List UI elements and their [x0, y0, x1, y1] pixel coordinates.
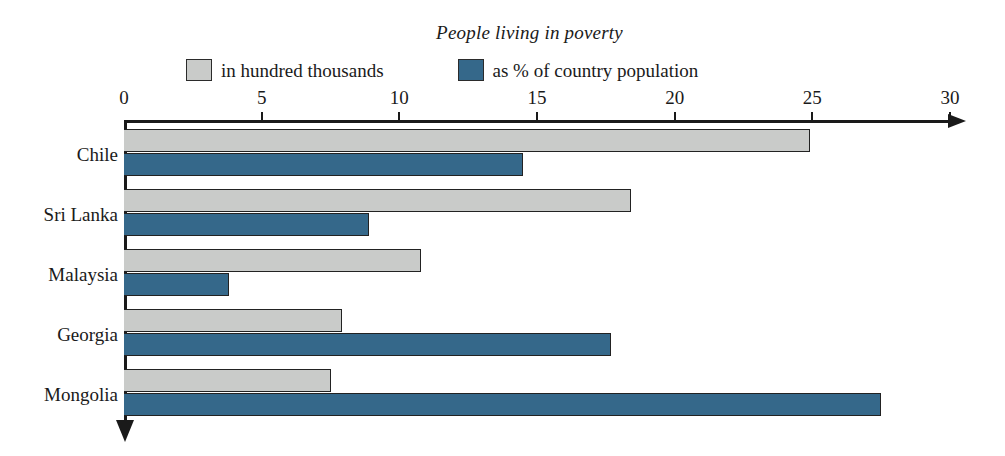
- x-tick-label-0: 0: [119, 88, 129, 107]
- category-axis-labels: ChileSri LankaMalaysiaGeorgiaMongolia: [0, 123, 118, 423]
- plot-area: [124, 123, 950, 423]
- legend-entry-percent-population[interactable]: as % of country population: [458, 59, 699, 81]
- legend-label-percent-population: as % of country population: [493, 61, 699, 80]
- chart-legend: in hundred thousands as % of country pop…: [186, 59, 698, 81]
- bar-sri-lanka-series-1[interactable]: [124, 213, 369, 236]
- legend-swatch-grey-icon: [186, 59, 212, 81]
- poverty-bar-chart: People living in poverty in hundred thou…: [0, 0, 1005, 456]
- legend-entry-hundred-thousands[interactable]: in hundred thousands: [186, 59, 384, 81]
- legend-label-hundred-thousands: in hundred thousands: [221, 61, 384, 80]
- bar-chile-series-1[interactable]: [124, 153, 523, 176]
- category-label-chile: Chile: [0, 145, 118, 164]
- category-label-georgia: Georgia: [0, 325, 118, 344]
- bar-sri-lanka-series-0[interactable]: [124, 189, 631, 212]
- bar-georgia-series-0[interactable]: [124, 309, 342, 332]
- x-tick-label-20: 20: [665, 88, 684, 107]
- x-tick-label-30: 30: [941, 88, 960, 107]
- bar-mongolia-series-1[interactable]: [124, 393, 881, 416]
- y-axis-arrow-icon: [116, 420, 134, 442]
- bar-malaysia-series-1[interactable]: [124, 273, 229, 296]
- category-label-sri-lanka: Sri Lanka: [0, 205, 118, 224]
- category-label-mongolia: Mongolia: [0, 385, 118, 404]
- bar-georgia-series-1[interactable]: [124, 333, 611, 356]
- x-axis-tick-labels: 051015202530: [0, 88, 1005, 110]
- category-label-malaysia: Malaysia: [0, 265, 118, 284]
- x-tick-label-10: 10: [390, 88, 409, 107]
- bar-mongolia-series-0[interactable]: [124, 369, 331, 392]
- x-tick-label-5: 5: [257, 88, 267, 107]
- bar-malaysia-series-0[interactable]: [124, 249, 421, 272]
- chart-title: People living in poverty: [27, 22, 1005, 44]
- x-axis-arrow-icon: [948, 114, 966, 128]
- bar-chile-series-0[interactable]: [124, 129, 810, 152]
- x-tick-label-15: 15: [528, 88, 547, 107]
- legend-swatch-blue-icon: [458, 59, 484, 81]
- x-tick-label-25: 25: [803, 88, 822, 107]
